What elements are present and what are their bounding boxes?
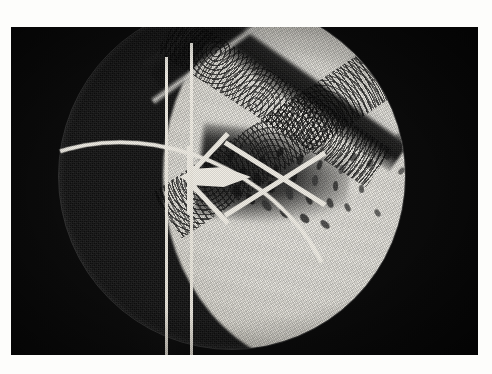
wake-eddy bbox=[343, 202, 352, 212]
wake-eddy bbox=[349, 152, 357, 162]
wake-eddy bbox=[383, 150, 393, 161]
wake-eddy bbox=[397, 166, 405, 175]
wake-eddy bbox=[325, 197, 335, 209]
wake-eddy bbox=[338, 165, 345, 175]
wake-eddy bbox=[358, 185, 364, 194]
wake-eddy bbox=[365, 158, 375, 169]
wake-eddy bbox=[316, 160, 324, 171]
screenshot-root: Schlieren photograph bbox=[0, 0, 492, 374]
wake-eddy bbox=[312, 175, 318, 186]
wake-eddy bbox=[298, 212, 311, 225]
wake-eddy bbox=[319, 219, 331, 231]
schlieren-photograph bbox=[11, 27, 478, 355]
wake-eddy bbox=[373, 208, 382, 217]
wake-eddy bbox=[333, 181, 338, 191]
wake-eddy bbox=[275, 146, 285, 158]
